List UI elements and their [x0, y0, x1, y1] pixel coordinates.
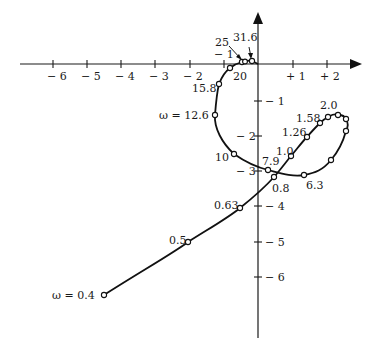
y-axis-arrow-icon — [253, 12, 263, 24]
point-unlabeled — [328, 157, 333, 162]
x-tick-labels: − 6 − 5 − 4 − 3 − 2 − 1 + 1 + 2 — [47, 48, 340, 83]
label-omega-20: 20 — [233, 70, 247, 83]
point-unlabeled — [325, 114, 330, 119]
y-tick-label: − 5 — [265, 236, 285, 249]
label-omega-0.63: 0.63 — [214, 199, 239, 212]
x-tick-label: + 2 — [320, 70, 340, 83]
frequency-response-curve — [104, 61, 348, 295]
label-omega-7.9: 7.9 — [262, 155, 280, 168]
point-omega-31.6 — [249, 58, 254, 63]
label-omega-10: 10 — [215, 151, 229, 164]
point-omega-12.6 — [212, 112, 217, 117]
x-axis — [20, 59, 362, 69]
y-tick-label: − 3 — [236, 165, 256, 178]
label-omega-25: 25 — [215, 36, 229, 49]
x-tick-label: + 1 — [286, 70, 306, 83]
x-tick-label: − 5 — [81, 70, 101, 83]
label-omega-2.0: 2.0 — [320, 99, 338, 112]
x-tick-label: − 4 — [115, 70, 135, 83]
data-points — [101, 58, 348, 297]
label-omega-1.26: 1.26 — [282, 126, 307, 139]
point-omega-6.3 — [301, 172, 306, 177]
label-omega-0.4: ω = 0.4 — [52, 289, 95, 302]
label-omega-6.3: 6.3 — [306, 179, 324, 192]
point-omega-15.8 — [216, 81, 221, 86]
x-tick-label: − 6 — [47, 70, 67, 83]
label-omega-12.6: ω = 12.6 — [159, 109, 209, 122]
x-axis-arrow-icon — [350, 59, 362, 69]
point-unlabeled — [343, 128, 348, 133]
x-tick-label: − 3 — [149, 70, 169, 83]
y-tick-label: − 4 — [265, 200, 285, 213]
y-tick-label: − 6 — [265, 271, 285, 284]
label-omega-31.6: 31.6 — [233, 31, 258, 44]
y-tick-label: − 1 — [265, 95, 285, 108]
point-omega-0.8 — [271, 174, 276, 179]
point-omega-10 — [231, 151, 236, 156]
label-omega-0.5: 0.5 — [169, 234, 187, 247]
label-omega-0.8: 0.8 — [272, 182, 290, 195]
point-omega-2.0 — [335, 112, 340, 117]
point-omega-20 — [227, 65, 232, 70]
point-omega-7.9 — [265, 167, 270, 172]
x-tick-label: − 1 — [214, 48, 234, 61]
y-tick-label: − 2 — [236, 130, 256, 143]
point-unlabeled — [343, 116, 348, 121]
point-unlabeled — [243, 59, 248, 64]
nyquist-plot: − 6 − 5 − 4 − 3 − 2 − 1 + 1 + 2 − 1 − 2 … — [0, 0, 383, 350]
point-omega-0.4 — [101, 292, 106, 297]
label-omega-15.8: 15.8 — [192, 82, 217, 95]
label-omega-1.58: 1.58 — [296, 112, 321, 125]
